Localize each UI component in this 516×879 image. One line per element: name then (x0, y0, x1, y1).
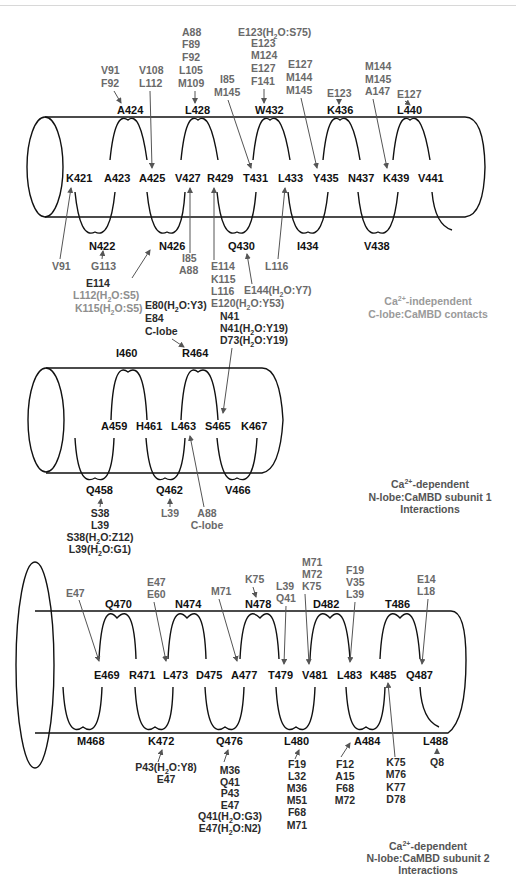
residue-label: D475 (196, 669, 222, 681)
residue-label: K472 (148, 735, 174, 747)
caption-line: Ca2+-dependent (389, 840, 468, 852)
contact-label: E127 (397, 88, 422, 100)
contact-label: F89 (182, 38, 200, 50)
contact-label: F92 (182, 51, 200, 63)
contact-label: L39 (276, 580, 294, 592)
contact-label: M51 (287, 794, 308, 806)
contact-label: L39 (91, 519, 109, 531)
contact-label: A88 (179, 264, 198, 276)
residue-label: L473 (163, 669, 188, 681)
residue-label: N426 (159, 240, 185, 252)
residue-label: T479 (268, 669, 293, 681)
residue-label: A459 (101, 420, 127, 432)
contact-label: L112 (139, 77, 163, 89)
caption-line: Ca2+-independent (384, 295, 472, 307)
residue-label: Q470 (105, 598, 132, 610)
contact-label: A147 (365, 85, 390, 97)
caption-line: Interactions (400, 503, 460, 515)
contact-label: F141 (251, 75, 275, 87)
contact-label: F68 (288, 806, 306, 818)
residue-label: Q430 (228, 240, 255, 252)
contact-label: L112(H2O:S5) (73, 289, 139, 303)
residue-label: N478 (245, 598, 271, 610)
residue-label: A425 (139, 172, 165, 184)
contact-label: Q8 (430, 756, 444, 768)
contact-label: L105 (179, 64, 203, 76)
caption-line: N-lobe:CaMBD subunit 1 (368, 491, 491, 503)
residue-label: L428 (185, 104, 210, 116)
helix-1-contacts-top: V91 F92 V108 L112 A88 F89 F92 L105 M109 … (101, 26, 422, 168)
helix-1-middle-residues: K421 A423 A425 V427 R429 T431 L433 Y435 … (66, 172, 444, 184)
contact-label: E127 (251, 62, 276, 74)
contact-label: E14 (417, 573, 436, 585)
residue-label: D482 (313, 598, 339, 610)
caption-line: Interactions (398, 864, 458, 876)
contact-label: E47 (157, 773, 176, 785)
contact-label: E123 (327, 87, 352, 99)
helix-2-mid-labels: E80(H2O:Y3) E84 C-lobe N41 N41(H2O:Y19) … (145, 299, 288, 413)
contact-label: C-lobe (145, 325, 178, 337)
residue-label: V427 (175, 172, 201, 184)
contact-label: C-lobe (191, 519, 224, 531)
residue-label: L440 (397, 104, 422, 116)
contact-label: L18 (417, 585, 435, 597)
residue-label: V466 (225, 484, 251, 496)
residue-label: N422 (89, 240, 115, 252)
contact-label: P43 (221, 787, 240, 799)
contact-label: L39 (346, 588, 364, 600)
contact-label: K75 (245, 573, 264, 585)
residue-label: A424 (117, 104, 144, 116)
residue-label: A423 (104, 172, 130, 184)
helix-2-contacts: S38 L39 S38(H2O:Z12) L39(H2O:G1) L39 A88… (67, 436, 224, 557)
contact-label: G113 (91, 260, 116, 272)
contact-label: E60 (147, 588, 166, 600)
residue-label: I434 (297, 240, 319, 252)
contact-label: K115 (211, 273, 236, 285)
contact-label: F92 (101, 77, 119, 89)
residue-label: V481 (302, 669, 328, 681)
residue-label: V441 (418, 172, 444, 184)
residue-label: A484 (354, 735, 381, 747)
helix-3-caption: Ca2+-dependent N-lobe:CaMBD subunit 2 In… (366, 840, 489, 876)
residue-label: T486 (385, 598, 410, 610)
contact-label: M36 (220, 764, 241, 776)
contact-label: M71 (211, 585, 232, 597)
contact-label: M76 (386, 768, 407, 780)
contact-label: L32 (288, 770, 306, 782)
contact-label: Q41 (276, 592, 296, 604)
residue-label: L480 (284, 735, 309, 747)
helix-1-bottom-residues: N422 N426 Q430 I434 V438 (89, 240, 390, 252)
residue-label: R464 (182, 347, 209, 359)
contact-label: F12 (336, 758, 354, 770)
contact-label: V91 (52, 260, 71, 272)
residue-label: T431 (243, 172, 268, 184)
residue-label: K421 (66, 172, 92, 184)
contact-label: A88 (182, 26, 201, 38)
residue-label: Q462 (156, 484, 183, 496)
residue-label: W432 (255, 104, 284, 116)
contact-label: E123 (251, 37, 276, 49)
residue-label: K439 (383, 172, 409, 184)
contact-label: A88 (197, 507, 216, 519)
contact-label: N41 (220, 310, 239, 322)
residue-label: K467 (241, 420, 267, 432)
contact-label: M124 (251, 49, 277, 61)
residue-label: M468 (77, 735, 105, 747)
contact-label: M144 (286, 71, 312, 83)
contact-label: E47 (147, 576, 166, 588)
contact-label: I85 (220, 73, 235, 85)
contact-label: F68 (336, 782, 354, 794)
residue-label: E469 (94, 669, 120, 681)
contact-label: I85 (182, 252, 197, 264)
helix-1-contacts-bottom: V91 G113 E114 L112(H2O:S5) K115(H2O:S5) … (52, 188, 312, 316)
contact-label: D78 (386, 793, 405, 805)
contact-label: L116 (211, 285, 235, 297)
contact-label: M72 (302, 568, 323, 580)
residue-label: N474 (175, 598, 202, 610)
contact-label: K75 (302, 580, 321, 592)
helix-3-contacts-bottom: P43(H2O:Y8) E47 M36 Q41 P43 E47 Q41(H2O:… (135, 683, 444, 836)
residue-label: R429 (207, 172, 233, 184)
contact-label: E144(H2O:Y7) (244, 284, 312, 298)
contact-label: K75 (386, 756, 405, 768)
contact-label: V35 (346, 576, 365, 588)
